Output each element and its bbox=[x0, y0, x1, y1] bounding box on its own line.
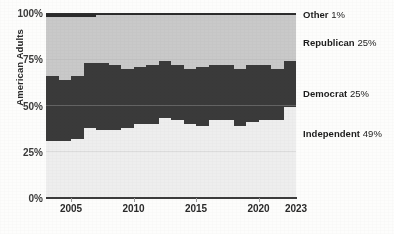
x-tick-mark bbox=[134, 198, 135, 202]
series-value: 1% bbox=[329, 9, 346, 20]
series-label-republican: Republican 25% bbox=[303, 37, 377, 48]
series-value: 25% bbox=[355, 37, 377, 48]
y-tick-label: 50% bbox=[3, 100, 43, 111]
series-name: Democrat bbox=[303, 88, 347, 99]
series-label-other: Other 1% bbox=[303, 9, 345, 20]
series-name: Republican bbox=[303, 37, 355, 48]
x-tick-mark bbox=[71, 198, 72, 202]
stacked-area-svg bbox=[46, 13, 296, 198]
y-tick-label: 75% bbox=[3, 54, 43, 65]
series-name: Independent bbox=[303, 128, 360, 139]
y-tick-label: 100% bbox=[3, 8, 43, 19]
x-tick-label: 2005 bbox=[60, 203, 82, 214]
series-value-labels: Other 1%Republican 25%Democrat 25%Indepe… bbox=[303, 0, 394, 234]
x-tick-label: 2010 bbox=[122, 203, 144, 214]
y-tick-label: 0% bbox=[3, 193, 43, 204]
y-axis-tick-labels: 0%25%50%75%100% bbox=[0, 0, 43, 234]
x-tick-mark bbox=[259, 198, 260, 202]
series-name: Other bbox=[303, 9, 329, 20]
x-tick-mark bbox=[196, 198, 197, 202]
y-tick-label: 25% bbox=[3, 146, 43, 157]
x-tick-label: 2015 bbox=[185, 203, 207, 214]
x-tick-label: 2020 bbox=[247, 203, 269, 214]
stacked-area-chart: American Adults 0%25%50%75%100% 20052010… bbox=[0, 0, 394, 234]
series-label-independent: Independent 49% bbox=[303, 128, 382, 139]
series-value: 49% bbox=[360, 128, 382, 139]
plot-area bbox=[46, 13, 296, 198]
series-value: 25% bbox=[347, 88, 369, 99]
series-label-democrat: Democrat 25% bbox=[303, 88, 369, 99]
